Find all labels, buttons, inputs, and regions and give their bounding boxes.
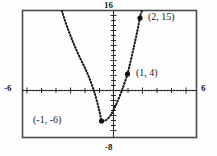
data-point-n1-n6 xyxy=(99,118,104,123)
y-axis-max-label: 16 xyxy=(104,1,113,10)
parabola-curve xyxy=(62,11,142,122)
point-label-n1-n6: (-1, -6) xyxy=(33,115,61,125)
parabola-graph-figure: 16 -8 -6 6 (2, 15) (1, 4) (-1, -6) xyxy=(0,0,217,156)
point-label-2-15: (2, 15) xyxy=(148,12,175,22)
x-axis-min-label: -6 xyxy=(4,84,12,93)
x-axis-max-label: 6 xyxy=(201,84,206,93)
point-label-1-4: (1, 4) xyxy=(136,68,158,78)
plot-canvas xyxy=(0,0,217,156)
data-point-1-4 xyxy=(125,71,130,76)
data-point-2-15 xyxy=(137,15,142,20)
y-axis-min-label: -8 xyxy=(105,143,113,152)
